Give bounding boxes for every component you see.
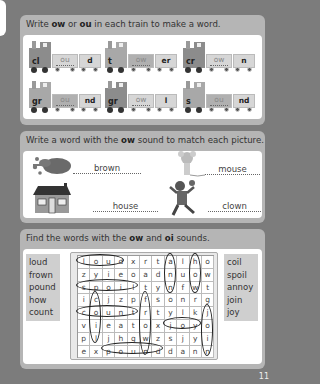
grid-cell[interactable]: t: [140, 282, 152, 295]
grid-cell[interactable]: g: [128, 333, 140, 346]
grid-cell[interactable]: k: [190, 307, 202, 320]
answer-text[interactable]: ow: [132, 95, 150, 106]
grid-cell[interactable]: n: [177, 294, 189, 307]
grid-cell[interactable]: a: [165, 256, 177, 269]
grid-cell[interactable]: n: [115, 307, 127, 320]
grid-cell[interactable]: w: [190, 282, 202, 295]
grid-cell[interactable]: d: [115, 256, 127, 269]
grid-cell[interactable]: r: [190, 294, 202, 307]
grid-cell[interactable]: t: [202, 282, 214, 295]
grid-cell[interactable]: u: [103, 307, 115, 320]
grid-cell[interactable]: z: [152, 333, 164, 346]
answer-wagon[interactable]: ow: [128, 94, 154, 108]
grid-cell[interactable]: c: [78, 307, 90, 320]
grid-cell[interactable]: x: [152, 320, 164, 333]
grid-cell[interactable]: y: [152, 282, 164, 295]
grid-cell[interactable]: l: [177, 256, 189, 269]
answer-wagon[interactable]: ow: [206, 54, 232, 68]
grid-cell[interactable]: r: [140, 256, 152, 269]
grid-cell[interactable]: j: [165, 320, 177, 333]
grid-cell[interactable]: y: [90, 269, 102, 282]
grid-cell[interactable]: u: [103, 256, 115, 269]
grid-cell[interactable]: y: [190, 320, 202, 333]
grid-cell[interactable]: o: [103, 282, 115, 295]
grid-cell[interactable]: f: [140, 294, 152, 307]
grid-cell[interactable]: i: [115, 282, 127, 295]
grid-cell[interactable]: p: [103, 346, 115, 359]
answer-wagon[interactable]: ou: [206, 94, 232, 108]
answer-wagon[interactable]: ou: [52, 94, 78, 108]
grid-cell[interactable]: o: [128, 269, 140, 282]
grid-cell[interactable]: l: [78, 256, 90, 269]
grid-cell[interactable]: x: [90, 346, 102, 359]
grid-cell[interactable]: o: [165, 294, 177, 307]
grid-cell[interactable]: i: [78, 294, 90, 307]
grid-cell[interactable]: i: [90, 320, 102, 333]
grid-cell[interactable]: j: [202, 307, 214, 320]
grid-cell[interactable]: n: [190, 346, 202, 359]
grid-cell[interactable]: e: [115, 269, 127, 282]
answer-text[interactable]: ow: [210, 55, 228, 66]
grid-cell[interactable]: j: [103, 294, 115, 307]
grid-cell[interactable]: r: [140, 307, 152, 320]
grid-cell[interactable]: j: [177, 333, 189, 346]
grid-cell[interactable]: p: [128, 294, 140, 307]
answer-wagon[interactable]: ow: [128, 54, 154, 68]
grid-cell[interactable]: x: [128, 256, 140, 269]
grid-cell[interactable]: n: [165, 282, 177, 295]
answer-text[interactable]: ow: [132, 55, 150, 66]
grid-cell[interactable]: l: [128, 282, 140, 295]
grid-cell[interactable]: e: [78, 346, 90, 359]
grid-cell[interactable]: p: [90, 282, 102, 295]
grid-cell[interactable]: o: [177, 320, 189, 333]
grid-cell[interactable]: l: [90, 333, 102, 346]
grid-cell[interactable]: n: [202, 346, 214, 359]
grid-cell[interactable]: i: [103, 269, 115, 282]
grid-cell[interactable]: s: [165, 333, 177, 346]
grid-cell[interactable]: t: [152, 256, 164, 269]
grid-cell[interactable]: s: [152, 294, 164, 307]
grid-cell[interactable]: l: [177, 307, 189, 320]
grid-cell[interactable]: s: [78, 282, 90, 295]
grid-cell[interactable]: a: [177, 346, 189, 359]
grid-cell[interactable]: t: [128, 320, 140, 333]
grid-cell[interactable]: o: [115, 346, 127, 359]
grid-cell[interactable]: n: [165, 269, 177, 282]
grid-cell[interactable]: o: [202, 320, 214, 333]
grid-cell[interactable]: i: [202, 333, 214, 346]
grid-cell[interactable]: z: [115, 294, 127, 307]
grid-cell[interactable]: a: [115, 320, 127, 333]
grid-cell[interactable]: w: [202, 269, 214, 282]
grid-cell[interactable]: o: [90, 256, 102, 269]
grid-cell[interactable]: e: [103, 320, 115, 333]
answer-text[interactable]: ou: [56, 95, 74, 106]
answer-brown[interactable]: brown: [73, 163, 141, 174]
grid-cell[interactable]: n: [140, 346, 152, 359]
answer-house[interactable]: house: [93, 201, 158, 212]
grid-cell[interactable]: u: [177, 269, 189, 282]
grid-cell[interactable]: y: [190, 333, 202, 346]
answer-clown[interactable]: clown: [208, 201, 261, 212]
grid-cell[interactable]: h: [190, 256, 202, 269]
grid-cell[interactable]: t: [152, 307, 164, 320]
grid-cell[interactable]: v: [78, 320, 90, 333]
grid-cell[interactable]: h: [115, 333, 127, 346]
grid-cell[interactable]: t: [128, 307, 140, 320]
grid-cell[interactable]: d: [152, 269, 164, 282]
grid-cell[interactable]: j: [103, 333, 115, 346]
grid-cell[interactable]: o: [90, 307, 102, 320]
grid-cell[interactable]: u: [128, 346, 140, 359]
grid-cell[interactable]: o: [190, 269, 202, 282]
answer-text[interactable]: ou: [210, 95, 228, 106]
grid-cell[interactable]: z: [78, 269, 90, 282]
grid-cell[interactable]: w: [140, 333, 152, 346]
answer-mouse[interactable]: mouse: [205, 164, 260, 175]
grid-cell[interactable]: g: [202, 294, 214, 307]
grid-cell[interactable]: c: [90, 294, 102, 307]
grid-cell[interactable]: o: [202, 256, 214, 269]
grid-cell[interactable]: o: [140, 320, 152, 333]
grid-cell[interactable]: a: [140, 269, 152, 282]
answer-text[interactable]: ou: [56, 55, 74, 66]
grid-cell[interactable]: f: [177, 282, 189, 295]
grid-cell[interactable]: p: [78, 333, 90, 346]
